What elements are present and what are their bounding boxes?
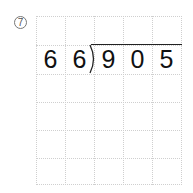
grid-line-vertical (65, 16, 66, 185)
divisor-digit: 6 (36, 45, 65, 74)
grid-line-horizontal (36, 102, 182, 103)
grid-line-horizontal (36, 74, 182, 75)
grid-line-vertical (94, 16, 95, 185)
grid-line-vertical (36, 16, 37, 185)
grid-line-vertical (181, 16, 182, 185)
grid-line-vertical (123, 16, 124, 185)
grid-line-horizontal (36, 16, 182, 17)
problem-number-badge: 7 (14, 16, 27, 29)
grid-line-horizontal (36, 130, 182, 131)
problem-number-label: 7 (18, 17, 24, 28)
grid-line-vertical (152, 16, 153, 185)
grid-line-horizontal (36, 184, 182, 185)
grid-line-horizontal (36, 158, 182, 159)
long-division-grid: 6 6 9 0 5 (36, 16, 182, 185)
dividend-digit: 9 (94, 45, 123, 74)
dividend-digit: 5 (152, 45, 181, 74)
dividend-digit: 0 (123, 45, 152, 74)
